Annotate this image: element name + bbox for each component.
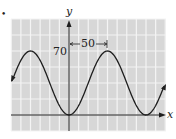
x-axis-label: x xyxy=(167,109,173,120)
bullet-marker: • xyxy=(1,10,6,19)
max-value-label: 70 xyxy=(53,46,67,57)
y-axis-label: y xyxy=(66,6,72,17)
half-period-label: 50 xyxy=(81,38,95,49)
sinusoid-graph xyxy=(0,0,176,139)
